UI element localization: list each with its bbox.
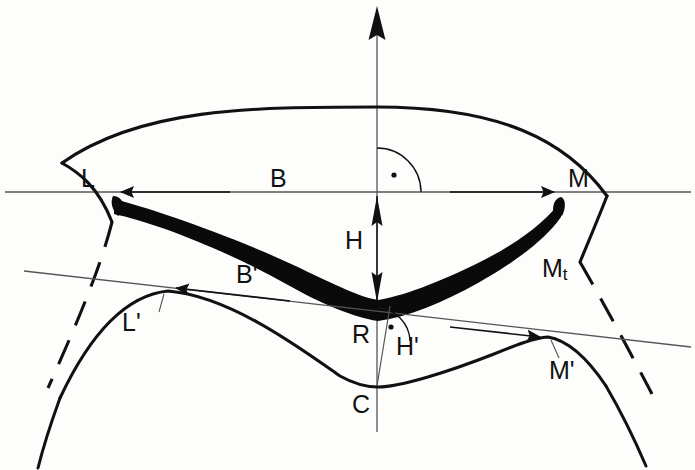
- label-C: C: [352, 392, 370, 417]
- label-B: B: [270, 166, 287, 191]
- vertical-axis-arrowhead: [369, 6, 386, 40]
- lower-curve-right-tail: [606, 386, 646, 466]
- label-M-t-subscript: t: [563, 265, 568, 284]
- label-M-t: Mt: [542, 256, 568, 283]
- diagram-canvas: L B M H B' L' Mt R H' C M': [0, 0, 695, 470]
- label-L: L: [81, 166, 95, 191]
- label-M: M: [568, 166, 589, 191]
- right-angle-arc-upper: [377, 148, 421, 192]
- upper-arc-right-tail-dashed: [580, 262, 652, 394]
- label-R: R: [352, 322, 370, 347]
- label-M-prime: M': [549, 358, 575, 383]
- upper-arc-right-tail-solid: [580, 196, 607, 262]
- label-H-prime: H': [396, 334, 419, 359]
- dimension-H-arrow-up: [372, 196, 383, 226]
- right-angle-dot-lower: [388, 324, 393, 329]
- label-L-prime: L': [122, 310, 141, 335]
- right-angle-dot-upper: [391, 172, 396, 177]
- label-B-prime: B': [236, 262, 257, 287]
- leader-line-Lprime: [159, 294, 164, 312]
- thick-band-shape: [114, 199, 561, 321]
- dimension-H-arrow-down: [372, 272, 383, 302]
- lower-curve-left-tail: [38, 398, 60, 468]
- label-M-t-base: M: [542, 254, 563, 282]
- label-H: H: [345, 228, 363, 253]
- upper-main-arc: [62, 107, 607, 196]
